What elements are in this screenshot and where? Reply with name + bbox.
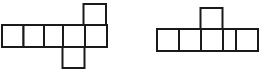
figure-canvas — [0, 0, 260, 69]
hexomino-net-left-cell-row-3 — [44, 25, 63, 47]
left-figure-group — [2, 4, 107, 68]
hexomino-net-left-cell-top — [84, 4, 107, 25]
hexomino-net-left-cell-row-4 — [63, 25, 85, 47]
pentomino-net-right-cell-top — [201, 8, 223, 29]
pentomino-net-right-cell-row-5 — [236, 29, 258, 51]
pentomino-net-right-cell-row-1 — [157, 29, 179, 51]
hexomino-net-left-cell-row-2 — [24, 25, 45, 47]
pentomino-net-right-cell-row-3 — [201, 29, 223, 51]
hexomino-net-left-cell-row-5 — [85, 25, 107, 47]
hexomino-net-left-cell-row-1 — [2, 25, 24, 47]
hexomino-net-left-cell-bottom — [63, 47, 85, 68]
polyomino-figures-svg — [0, 0, 260, 69]
pentomino-net-right-cell-row-2 — [179, 29, 201, 51]
right-figure-group — [157, 8, 258, 51]
